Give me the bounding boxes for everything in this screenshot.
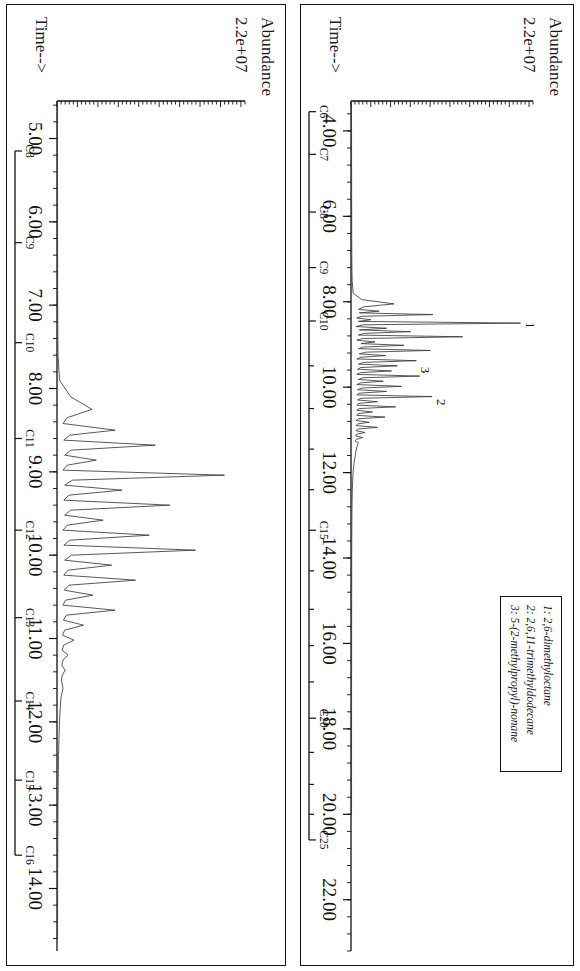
carbon-number-label: C20	[318, 709, 330, 728]
chromatogram-panel-top: Abundance 2.2e+07 Time--> 4.006.008.0010…	[300, 4, 574, 966]
x-tick-label: 13.00	[25, 784, 46, 827]
legend-entry: 2: 2,6,11-trimethyldodecane	[523, 605, 540, 763]
carbon-number-label: C8	[24, 144, 36, 158]
carbon-number-label: C12	[24, 521, 36, 540]
x-tick-label: 20.00	[319, 793, 340, 836]
x-axis-label-bottom: Time-->	[31, 17, 51, 73]
y-axis-label-top: Abundance	[545, 17, 565, 96]
x-tick-label: 4.00	[319, 114, 340, 147]
chromatogram-panel-bottom: Abundance 2.2e+07 Time--> 5.006.007.008.…	[6, 4, 286, 966]
x-axis-label-top: Time-->	[325, 17, 345, 73]
carbon-number-label: C10	[318, 311, 330, 330]
peak-number-annotation: 3	[418, 367, 433, 374]
carbon-number-label: C11	[24, 429, 36, 448]
x-tick-label: 6.00	[25, 205, 46, 238]
carbon-number-label: C9	[24, 236, 36, 250]
chromatogram-trace	[57, 101, 224, 939]
plot-area-top: 4.006.008.0010.0012.0014.0016.0018.0020.…	[299, 5, 573, 967]
carbon-number-label: C9	[318, 261, 330, 275]
carbon-number-label: C16	[24, 846, 36, 865]
plot-area-bottom: 5.006.007.008.009.0010.0011.0012.0013.00…	[5, 5, 285, 967]
carbon-number-label: C13	[24, 608, 36, 627]
x-tick-label: 9.00	[25, 455, 46, 488]
peak-number-annotation: 1	[523, 322, 538, 329]
carbon-number-label: C7	[318, 148, 330, 162]
x-tick-label: 22.00	[319, 878, 340, 921]
x-tick-label: 14.00	[25, 867, 46, 910]
carbon-number-label: C15	[318, 521, 330, 540]
x-tick-label: 14.00	[319, 537, 340, 580]
figure-stage: Abundance 2.2e+07 Time--> 4.006.008.0010…	[0, 0, 580, 971]
x-tick-label: 12.00	[319, 451, 340, 494]
carbon-number-label: C25	[318, 830, 330, 849]
peak-number-annotation: 2	[434, 399, 449, 406]
carbon-number-label: C6	[318, 105, 330, 119]
legend-entry: 1: 2,6-dimethyloctane	[539, 605, 556, 763]
x-tick-label: 7.00	[25, 289, 46, 322]
x-tick-label: 10.00	[319, 366, 340, 409]
carbon-number-label: C15	[24, 771, 36, 790]
carbon-number-label: C8	[318, 205, 330, 219]
x-tick-label: 8.00	[25, 372, 46, 405]
y-axis-value-bottom: 2.2e+07	[231, 17, 251, 72]
compound-legend: 1: 2,6-dimethyloctane 2: 2,6,11-trimethy…	[500, 596, 562, 772]
y-axis-label-bottom: Abundance	[257, 17, 277, 96]
carbon-number-label: C10	[24, 333, 36, 352]
chromatogram-trace	[352, 101, 521, 814]
y-axis-value-top: 2.2e+07	[519, 17, 539, 72]
carbon-number-label: C14	[24, 691, 36, 710]
legend-entry: 3: 5-(2-methylpropyl)-nonane	[506, 605, 523, 763]
x-tick-label: 10.00	[25, 534, 46, 577]
x-tick-label: 16.00	[319, 622, 340, 665]
